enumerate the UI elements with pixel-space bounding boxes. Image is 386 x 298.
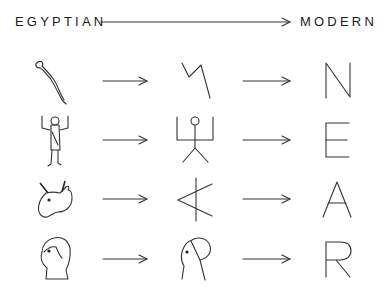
header-arrow-icon [101,18,290,26]
arrow-right-icon [103,255,147,263]
arrow-right-icon [243,136,290,144]
arrow-right-icon [243,195,290,203]
man-raised-arms-hieroglyph-icon [42,116,68,166]
human-head-hieroglyph-icon [41,237,70,279]
ox-head-hieroglyph-icon [39,181,72,217]
arrow-right-icon [103,195,147,203]
row-r [41,237,351,280]
arrow-right-icon [103,77,147,85]
evolution-diagram [0,0,386,298]
letter-e [326,123,349,157]
stick-figure-glyph-icon [177,117,213,162]
row-e [42,116,349,166]
letter-n [326,63,350,98]
snake-hieroglyph-icon [36,61,66,104]
arrow-right-icon [243,77,290,85]
zigzag-glyph-icon [182,63,210,98]
row-a [39,178,351,221]
letter-a [323,182,351,217]
arrow-right-icon [103,136,147,144]
letter-r [326,242,351,277]
rotated-ox-glyph-icon [178,178,212,221]
row-n [36,61,350,104]
head-outline-glyph-icon [181,238,210,280]
arrow-right-icon [243,255,290,263]
